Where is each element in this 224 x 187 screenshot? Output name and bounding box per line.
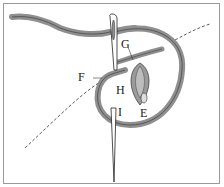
stitch-diagram: G F H I E (0, 0, 224, 187)
label-h: H (116, 83, 125, 97)
label-f: F (78, 70, 85, 84)
label-i: I (118, 105, 122, 119)
label-e: E (140, 106, 147, 120)
needle-eye (112, 20, 115, 40)
anchor-stitch (141, 93, 147, 103)
label-g: G (121, 37, 130, 51)
